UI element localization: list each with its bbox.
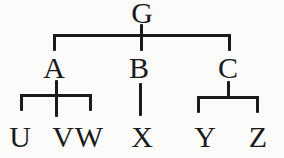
- edge-g-children-bar: [53, 34, 231, 37]
- node-b: B: [129, 53, 149, 83]
- node-y: Y: [194, 122, 216, 152]
- node-z: Z: [249, 122, 267, 152]
- node-x: X: [131, 122, 153, 152]
- node-a: A: [43, 53, 65, 83]
- node-w: W: [75, 122, 103, 152]
- edge-g-to-c-drop: [228, 34, 231, 51]
- edge-a-to-u-drop: [20, 94, 23, 111]
- edge-c-to-z-drop: [256, 96, 259, 113]
- edge-a-stem: [55, 80, 58, 117]
- edge-a-to-w-drop: [89, 94, 92, 111]
- edge-a-children-bar: [20, 94, 92, 97]
- edge-g-stem: [140, 24, 143, 51]
- node-c: C: [218, 53, 238, 83]
- edge-b-to-x-line: [139, 83, 142, 116]
- edge-c-children-bar: [197, 96, 259, 99]
- edge-g-to-a-drop: [53, 34, 56, 51]
- edge-c-to-y-drop: [197, 96, 200, 113]
- node-u: U: [9, 122, 31, 152]
- tree-diagram: G A B C U V W X Y Z: [0, 0, 284, 158]
- node-v: V: [52, 122, 74, 152]
